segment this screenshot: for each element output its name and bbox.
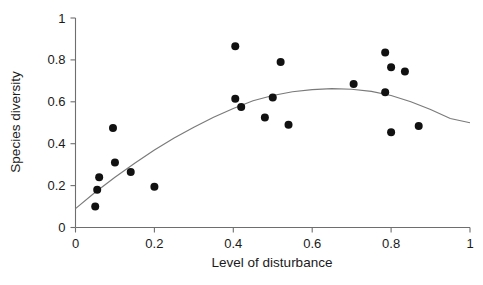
- y-tick-label: 1: [58, 11, 65, 26]
- data-point: [111, 159, 119, 167]
- y-tick-label: 0: [58, 220, 65, 235]
- y-axis-title: Species diversity: [8, 71, 23, 173]
- data-point: [381, 49, 389, 57]
- y-tick-label: 0.6: [47, 94, 65, 109]
- data-point: [127, 168, 135, 176]
- data-point: [261, 114, 269, 122]
- y-tick-label: 0.2: [47, 178, 65, 193]
- data-point: [401, 67, 409, 75]
- data-point: [109, 124, 117, 132]
- data-point: [285, 121, 293, 129]
- data-point: [381, 88, 389, 96]
- x-axis-ticks: [76, 228, 471, 233]
- axes-group: [76, 18, 471, 228]
- data-point: [91, 203, 99, 211]
- data-point: [415, 122, 423, 130]
- data-point: [231, 95, 239, 103]
- y-tick-label: 0.8: [47, 52, 65, 67]
- data-point: [237, 103, 245, 111]
- data-point: [387, 128, 395, 136]
- x-tick-label: 0.8: [382, 236, 400, 251]
- data-point: [93, 186, 101, 194]
- data-point: [95, 173, 103, 181]
- x-tick-label: 0: [72, 236, 79, 251]
- x-axis-tick-labels: 00.20.40.60.81: [72, 236, 474, 251]
- data-point: [269, 94, 277, 102]
- x-tick-label: 0.2: [145, 236, 163, 251]
- fitted-trend-curve: [76, 89, 471, 209]
- data-point: [150, 183, 158, 191]
- figure-root: 00.20.40.60.81 00.20.40.60.81 Level of d…: [0, 0, 483, 285]
- data-point: [387, 63, 395, 71]
- scatter-plot: 00.20.40.60.81 00.20.40.60.81 Level of d…: [0, 0, 483, 285]
- x-tick-label: 1: [466, 236, 473, 251]
- data-point: [231, 42, 239, 50]
- x-axis-title: Level of disturbance: [212, 255, 333, 270]
- y-axis-ticks: [71, 18, 76, 228]
- y-tick-label: 0.4: [47, 136, 65, 151]
- x-tick-label: 0.6: [303, 236, 321, 251]
- y-axis-tick-labels: 00.20.40.60.81: [47, 11, 65, 236]
- x-tick-label: 0.4: [224, 236, 242, 251]
- data-points-group: [91, 42, 422, 210]
- data-point: [350, 80, 358, 88]
- data-point: [277, 58, 285, 66]
